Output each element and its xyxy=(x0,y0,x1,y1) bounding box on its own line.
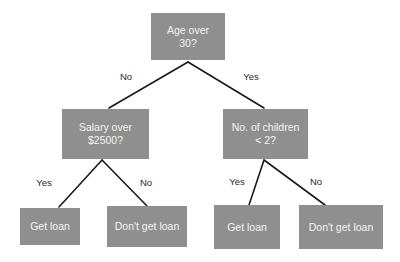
leaf-dont-get-loan-1: Don't get loan xyxy=(107,206,187,247)
edge-root-to-salary xyxy=(109,62,188,108)
edge-label-salary-yes: Yes xyxy=(36,177,52,188)
node-salary-over-2500: Salary over $2500? xyxy=(62,109,149,159)
leaf-dont-get-loan-2: Don't get loan xyxy=(299,205,383,249)
decision-tree-diagram: Age over 30? Salary over $2500? No. of c… xyxy=(0,0,400,262)
edge-root-to-children xyxy=(188,62,264,108)
leaf-get-loan-1: Get loan xyxy=(20,208,80,245)
edge-label-salary-no: No xyxy=(140,177,152,188)
edge-label-root-no: No xyxy=(120,71,132,82)
edge-label-children-no: No xyxy=(310,176,322,187)
edge-label-root-yes: Yes xyxy=(243,71,259,82)
edge-salary-to-leaf1 xyxy=(59,160,102,207)
edge-label-children-yes: Yes xyxy=(229,176,245,187)
node-children-less-than-2: No. of children < 2? xyxy=(223,109,308,159)
node-root-age-over-30: Age over 30? xyxy=(151,13,225,60)
edge-children-to-leaf3 xyxy=(249,160,264,205)
leaf-get-loan-2: Get loan xyxy=(214,205,280,249)
